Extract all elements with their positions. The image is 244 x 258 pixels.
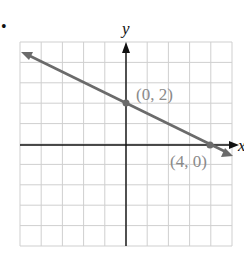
graph-figure: • y x (0, 2) (4, 0)	[0, 0, 244, 258]
x-axis-label: x	[237, 136, 244, 155]
point-y-intercept	[123, 100, 130, 107]
point-x-intercept	[207, 142, 214, 149]
bullet-marker: •	[1, 18, 7, 35]
y-axis-label: y	[120, 19, 130, 38]
point-label-b: (4, 0)	[170, 152, 207, 171]
point-label-a: (0, 2)	[136, 85, 173, 104]
coordinate-plane: • y x (0, 2) (4, 0)	[0, 0, 244, 258]
y-axis-arrow-icon	[122, 42, 130, 53]
